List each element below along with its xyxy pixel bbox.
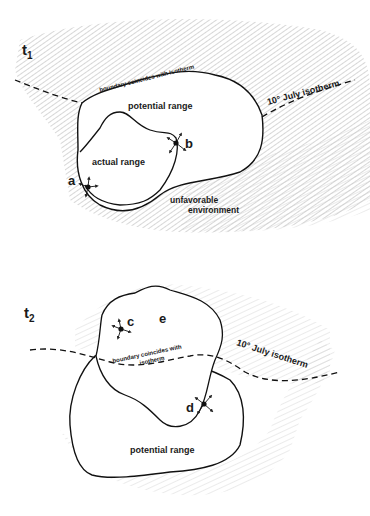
point-c-label: c [127, 314, 134, 329]
potential-range-label-t2: potential range [130, 445, 195, 455]
potential-range-label-t1: potential range [128, 101, 193, 111]
point-b-label: b [185, 136, 193, 151]
time-label-t2: t2 [24, 304, 35, 324]
point-a-label: a [68, 173, 76, 188]
range-diagram: t1 boundary coincides with isotherm 10° … [0, 0, 370, 516]
point-d-label: d [186, 400, 194, 415]
panel-t2: t2 boundary coincides with isotherm 10° … [24, 284, 340, 495]
diagram-canvas: t1 boundary coincides with isotherm 10° … [0, 0, 370, 516]
actual-range-label-t1: actual range [92, 157, 145, 167]
environment-label-t1: environment [188, 205, 239, 215]
panel-t1: t1 boundary coincides with isotherm 10° … [15, 19, 370, 232]
point-e-label: e [159, 311, 166, 326]
unfavorable-label-t1: unfavorable [170, 195, 218, 205]
